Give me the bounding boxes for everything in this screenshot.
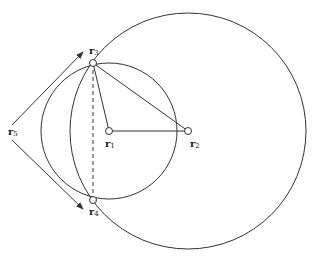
point-r2-marker [185,128,192,135]
label-r4: r4 [89,207,99,218]
geometry-diagram [0,0,314,261]
label-r3: r3 [89,46,99,57]
label-r1: r1 [105,139,115,150]
arrow-r5-to-r4 [12,140,83,209]
segment-r3-r2 [93,63,188,131]
label-r2: r2 [190,139,200,150]
point-r4-marker [90,197,97,204]
arrow-r5-to-r3 [12,52,83,125]
point-r1-marker [106,128,113,135]
label-r5: r5 [8,127,18,138]
point-r3-marker [90,60,97,67]
